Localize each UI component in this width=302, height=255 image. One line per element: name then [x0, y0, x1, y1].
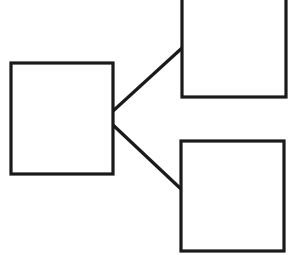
- connector-root-to-top: [113, 48, 182, 111]
- bottom-child-node-box: [181, 141, 284, 251]
- root-node-box: [11, 63, 113, 174]
- connector-root-to-bottom: [113, 125, 181, 189]
- top-child-node-box: [182, 0, 286, 97]
- tree-diagram: [0, 0, 302, 255]
